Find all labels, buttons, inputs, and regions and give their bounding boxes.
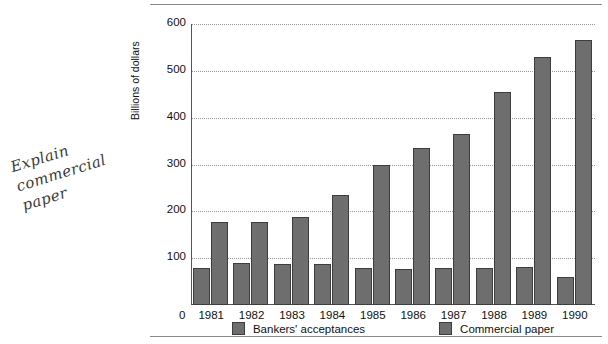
x-axis-zero-label: 0	[179, 309, 185, 321]
chart-legend: Bankers' acceptancesCommercial paper	[191, 322, 595, 335]
bar	[251, 222, 268, 305]
y-axis-title: Billions of dollars	[129, 41, 141, 120]
x-tick-label: 1988	[474, 309, 514, 321]
x-tick-label: 1990	[555, 309, 595, 321]
bar-group	[231, 24, 271, 305]
bar-group	[393, 24, 433, 305]
x-tick-label: 1982	[232, 309, 272, 321]
bar-group	[191, 24, 231, 305]
bar	[516, 267, 533, 305]
legend-item: Bankers' acceptances	[232, 322, 365, 335]
plot-area: Billions of dollars 100200300400500600 0…	[191, 24, 595, 305]
y-tick-label: 100	[153, 250, 186, 262]
bar-group	[433, 24, 473, 305]
bar	[373, 165, 390, 306]
y-tick-label: 400	[153, 110, 186, 122]
bar	[476, 268, 493, 305]
bar	[413, 148, 430, 305]
bar	[435, 268, 452, 305]
bar	[453, 134, 470, 305]
x-tick-label: 1983	[272, 309, 312, 321]
bar-group	[353, 24, 393, 305]
bar	[534, 57, 551, 305]
bar	[314, 264, 331, 305]
bar-group	[312, 24, 352, 305]
bar-group	[272, 24, 312, 305]
x-tick-label: 1985	[353, 309, 393, 321]
bar	[332, 195, 349, 305]
x-tick-label: 1987	[434, 309, 474, 321]
handwritten-annotation: Explain commercial paper	[8, 120, 150, 215]
bar	[193, 268, 210, 305]
legend-label: Commercial paper	[460, 323, 554, 335]
x-tick-label: 1989	[514, 309, 554, 321]
bar-group	[474, 24, 514, 305]
legend-swatch	[232, 322, 245, 335]
legend-swatch	[439, 322, 452, 335]
chart-figure: Billions of dollars 100200300400500600 0…	[150, 4, 602, 340]
bar	[557, 277, 574, 305]
y-tick-label: 300	[153, 157, 186, 169]
bar	[395, 269, 412, 305]
bar	[211, 222, 228, 305]
figure-top-rule	[150, 4, 602, 5]
y-tick-label: 200	[153, 203, 186, 215]
bar	[233, 263, 250, 305]
x-tick-label: 1981	[191, 309, 231, 321]
x-tick-label: 1984	[312, 309, 352, 321]
y-tick-label: 600	[153, 16, 186, 28]
bar	[575, 40, 592, 305]
bar	[274, 264, 291, 305]
bar	[494, 92, 511, 305]
figure-bottom-rule	[150, 336, 602, 337]
bar-group	[555, 24, 595, 305]
x-tick-label: 1986	[393, 309, 433, 321]
legend-item: Commercial paper	[439, 322, 554, 335]
y-tick-label: 500	[153, 63, 186, 75]
bar-group	[514, 24, 554, 305]
bar	[355, 268, 372, 305]
bar	[292, 217, 309, 305]
legend-label: Bankers' acceptances	[253, 323, 365, 335]
